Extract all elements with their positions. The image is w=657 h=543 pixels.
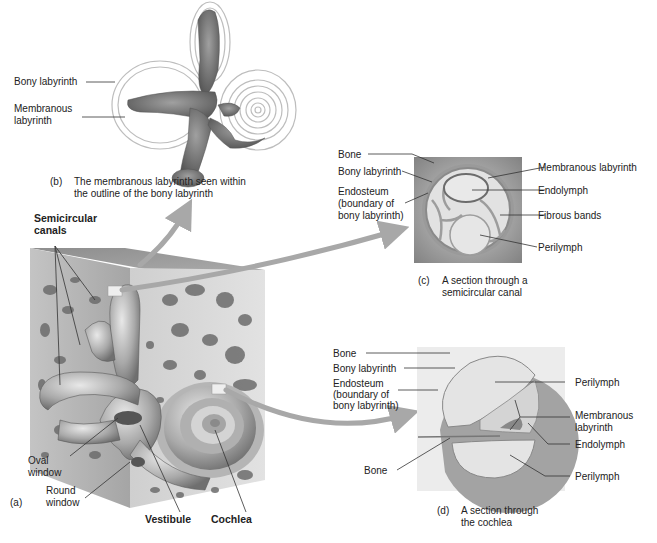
label-c-perilymph: Perilymph xyxy=(538,242,582,253)
label-d-bone-top: Bone xyxy=(333,348,356,359)
label-a-round-2: window xyxy=(46,497,79,508)
label-d-membranous-2: labyrinth xyxy=(575,422,613,433)
label-a-tag: (a) xyxy=(10,497,22,508)
panel-b-illustration xyxy=(82,2,296,187)
caption-c-tag: (c) xyxy=(418,275,430,287)
caption-d-tag: (d) xyxy=(437,505,449,517)
label-a-oval-2: window xyxy=(28,467,61,478)
label-d-endosteum-3: bony labyrinth) xyxy=(333,400,399,411)
label-c-membranous: Membranous labyrinth xyxy=(538,162,637,173)
label-a-semicircular-2: canals xyxy=(34,225,67,236)
label-c-endolymph: Endolymph xyxy=(538,185,588,196)
caption-b-line2: the outline of the bony labyrinth xyxy=(74,188,213,200)
label-a-cochlea: Cochlea xyxy=(211,514,252,525)
label-c-bony-labyrinth: Bony labyrinth xyxy=(338,166,401,177)
label-b-membranous-1: Membranous xyxy=(14,103,72,114)
label-d-endolymph: Endolymph xyxy=(575,439,625,450)
caption-c-line1: A section through a xyxy=(442,275,528,287)
label-d-bony-labyrinth: Bony labyrinth xyxy=(333,363,396,374)
caption-b-line1: The membranous labyrinth seen within xyxy=(74,176,246,188)
label-c-endosteum-2: (boundary of xyxy=(338,198,394,209)
label-d-bone-bottom: Bone xyxy=(364,465,387,476)
label-a-oval-1: Oval xyxy=(28,455,49,466)
caption-d-line1: A section through xyxy=(461,505,538,517)
label-d-perilymph-top: Perilymph xyxy=(575,377,619,388)
panel-d-illustration xyxy=(366,347,579,513)
label-a-semicircular-1: Semicircular xyxy=(34,213,97,224)
label-b-membranous-2: labyrinth xyxy=(14,115,52,126)
label-c-endosteum-3: bony labyrinth) xyxy=(338,210,404,221)
label-d-membranous-1: Membranous xyxy=(575,410,633,421)
label-c-endosteum-1: Endosteum xyxy=(338,186,389,197)
caption-b-tag: (b) xyxy=(50,176,62,188)
label-a-round-1: Round xyxy=(46,485,75,496)
label-d-perilymph-bottom: Perilymph xyxy=(575,471,619,482)
caption-c-line2: semicircular canal xyxy=(442,287,522,299)
label-c-bone: Bone xyxy=(338,149,361,160)
caption-d-line2: the cochlea xyxy=(461,517,512,529)
inner-ear-illustration xyxy=(0,0,657,543)
label-d-endosteum-1: Endosteum xyxy=(333,378,384,389)
label-a-vestibule: Vestibule xyxy=(145,514,191,525)
label-d-endosteum-2: (boundary of xyxy=(333,389,389,400)
label-b-bony-labyrinth: Bony labyrinth xyxy=(14,76,77,87)
label-c-fibrous-bands: Fibrous bands xyxy=(538,210,601,221)
